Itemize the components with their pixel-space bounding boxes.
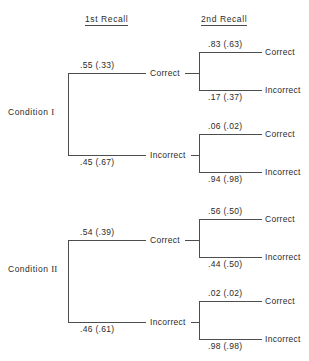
condition-2-correct-leaf-1-label: Correct — [265, 214, 295, 224]
condition-2-branch-2-line — [68, 322, 146, 323]
condition-1-incorrect-leaf-2-probability: .94 (.98) — [208, 174, 242, 184]
condition-1-branch-2-line — [68, 155, 146, 156]
condition-2-branch-1-line — [68, 240, 146, 241]
condition-2-incorrect-leaf-2-probability: .98 (.98) — [208, 341, 242, 351]
condition-label-1-numeral: I — [51, 107, 54, 117]
condition-2-incorrect-leaf-1-line — [199, 301, 262, 302]
condition-2-root-vertical — [68, 240, 69, 322]
condition-2-correct-leaf-1-probability: .56 (.50) — [208, 206, 242, 216]
condition-1-incorrect-leaf-2-label: Incorrect — [265, 167, 301, 177]
condition-1-correct-vertical — [199, 52, 200, 90]
condition-1-branch-1-line — [68, 73, 146, 74]
condition-1-incorrect-leaf-1-probability: .06 (.02) — [208, 121, 242, 131]
condition-1-correct-leaf-2-line — [199, 90, 262, 91]
condition-2-incorrect-stem — [191, 322, 199, 323]
condition-1-incorrect-leaf-1-line — [199, 134, 262, 135]
column-header-second-recall: 2nd Recall — [201, 14, 247, 26]
condition-1-correct-leaf-2-probability: .17 (.37) — [208, 92, 242, 102]
condition-2-correct-vertical — [199, 219, 200, 257]
condition-1-incorrect-leaf-1-label: Correct — [265, 129, 295, 139]
probability-tree-diagram: 1st Recall 2nd Recall Condition I .55 (.… — [0, 0, 309, 361]
condition-2-incorrect-vertical — [199, 301, 200, 339]
condition-1-root-vertical — [68, 73, 69, 155]
condition-2-correct-leaf-1-line — [199, 219, 262, 220]
condition-1-incorrect-leaf-2-line — [199, 172, 262, 173]
condition-1-correct-leaf-1-probability: .83 (.63) — [208, 39, 242, 49]
condition-2-correct-leaf-2-line — [199, 257, 262, 258]
condition-label-1: Condition I — [8, 107, 54, 117]
condition-1-incorrect-stem — [191, 155, 199, 156]
condition-label-2-numeral: II — [51, 264, 57, 274]
condition-1-correct-leaf-1-line — [199, 52, 262, 53]
condition-2-incorrect-leaf-1-probability: .02 (.02) — [208, 288, 242, 298]
condition-1-correct-stem — [185, 73, 199, 74]
condition-2-incorrect-leaf-2-label: Incorrect — [265, 334, 301, 344]
condition-2-correct-leaf-2-probability: .44 (.50) — [208, 259, 242, 269]
condition-label-1-prefix: Condition — [8, 107, 48, 117]
condition-1-branch-1-probability: .55 (.33) — [80, 60, 114, 70]
condition-1-node-incorrect: Incorrect — [150, 150, 186, 160]
condition-2-correct-stem — [185, 240, 199, 241]
condition-2-branch-2-probability: .46 (.61) — [80, 324, 114, 334]
condition-1-branch-2-probability: .45 (.67) — [80, 157, 114, 167]
condition-1-node-correct: Correct — [150, 68, 180, 78]
condition-1-incorrect-vertical — [199, 134, 200, 172]
condition-label-2-prefix: Condition — [8, 264, 48, 274]
condition-2-node-correct: Correct — [150, 235, 180, 245]
condition-1-correct-leaf-2-label: Incorrect — [265, 85, 301, 95]
condition-2-branch-1-probability: .54 (.39) — [80, 227, 114, 237]
condition-2-incorrect-leaf-2-line — [199, 339, 262, 340]
condition-1-correct-leaf-1-label: Correct — [265, 47, 295, 57]
condition-2-incorrect-leaf-1-label: Correct — [265, 296, 295, 306]
condition-2-correct-leaf-2-label: Incorrect — [265, 252, 301, 262]
column-header-first-recall: 1st Recall — [85, 14, 128, 26]
condition-label-2: Condition II — [8, 264, 57, 274]
condition-2-node-incorrect: Incorrect — [150, 317, 186, 327]
